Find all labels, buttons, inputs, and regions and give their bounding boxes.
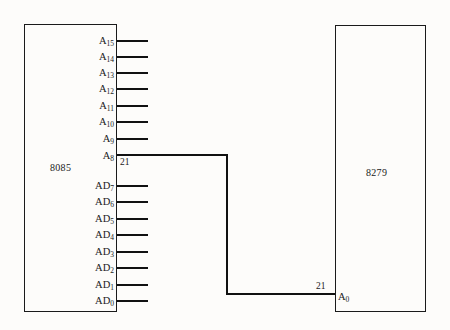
pin-stub-a14 bbox=[117, 56, 148, 58]
pin-stub-ad3 bbox=[117, 251, 148, 253]
pin-label-ad5: AD5 bbox=[95, 213, 114, 224]
chip-8279-label: 8279 bbox=[366, 167, 387, 178]
wire-a0-horizontal-bottom bbox=[226, 293, 336, 295]
pin-stub-a15 bbox=[117, 40, 148, 42]
pin-label-a12: A12 bbox=[99, 83, 114, 94]
pin-stub-a10 bbox=[117, 121, 148, 123]
wire-a8-vertical bbox=[226, 154, 228, 295]
pin-stub-a11 bbox=[117, 105, 148, 107]
pin-number-a0: 21 bbox=[316, 281, 326, 291]
pin-label-ad1: AD1 bbox=[95, 279, 114, 290]
pin-sub-a12: 12 bbox=[107, 87, 115, 96]
pin-stub-ad0 bbox=[117, 300, 148, 302]
pin-label-a9: A9 bbox=[103, 133, 114, 144]
pin-label-ad6: AD6 bbox=[95, 196, 114, 207]
pin-sub-ad5: 5 bbox=[110, 217, 114, 226]
pin-sub-ad7: 7 bbox=[110, 184, 114, 193]
pin-sub-ad3: 3 bbox=[110, 250, 114, 259]
pin-sub-a14: 14 bbox=[107, 55, 115, 64]
pin-label-a8: A8 bbox=[103, 150, 114, 161]
pin-sub-a10: 10 bbox=[107, 120, 115, 129]
pin-label-ad7: AD7 bbox=[95, 180, 114, 191]
pin-sub-ad6: 6 bbox=[110, 200, 114, 209]
pin-label-a13: A13 bbox=[99, 67, 114, 78]
pin-label-ad3: AD3 bbox=[95, 246, 114, 257]
pin-stub-ad2 bbox=[117, 267, 148, 269]
pin-stub-ad4 bbox=[117, 234, 148, 236]
pin-number-a8: 21 bbox=[120, 157, 130, 167]
pin-sub-ad4: 4 bbox=[110, 233, 114, 242]
pin-sub-ad1: 1 bbox=[110, 283, 114, 292]
pin-stub-ad6 bbox=[117, 201, 148, 203]
pin-label-a0: A0 bbox=[338, 291, 349, 302]
pin-label-a15: A15 bbox=[99, 35, 114, 46]
pin-sub-a9: 9 bbox=[110, 137, 114, 146]
pin-sub-a15: 15 bbox=[107, 39, 115, 48]
pin-stub-a13 bbox=[117, 72, 148, 74]
pin-label-ad0: AD0 bbox=[95, 295, 114, 306]
pin-stub-a9 bbox=[117, 138, 148, 140]
pin-sub-ad2: 2 bbox=[110, 266, 114, 275]
circuit-diagram: 8085 A15 A14 A13 A12 A11 A10 A9 A8 AD7 A… bbox=[0, 0, 450, 330]
pin-label-ad4: AD4 bbox=[95, 229, 114, 240]
pin-label-a14: A14 bbox=[99, 51, 114, 62]
chip-8085-label: 8085 bbox=[50, 162, 71, 173]
wire-a8-horizontal-top bbox=[117, 154, 228, 156]
pin-sub-a0: 0 bbox=[346, 295, 350, 304]
pin-stub-ad1 bbox=[117, 284, 148, 286]
pin-label-ad2: AD2 bbox=[95, 262, 114, 273]
pin-sub-a11: 11 bbox=[107, 104, 114, 113]
pin-sub-a13: 13 bbox=[107, 71, 115, 80]
pin-label-a10: A10 bbox=[99, 116, 114, 127]
pin-stub-ad7 bbox=[117, 185, 148, 187]
pin-stub-ad5 bbox=[117, 218, 148, 220]
pin-label-a11: A11 bbox=[99, 100, 114, 111]
pin-stub-a12 bbox=[117, 88, 148, 90]
pin-sub-ad0: 0 bbox=[110, 299, 114, 308]
pin-sub-a8: 8 bbox=[110, 154, 114, 163]
